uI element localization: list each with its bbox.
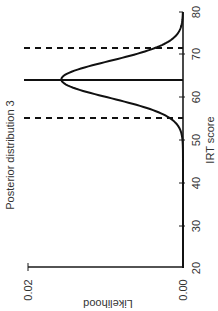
- likelihood-tick-label-0.02: 0.02: [22, 279, 34, 300]
- likelihood-axis-label: Likelihood: [83, 298, 133, 310]
- irt-tick-label-50: 50: [190, 134, 202, 146]
- likelihood-tick-label-0.00: 0.00: [177, 279, 189, 300]
- irt-tick-label-60: 60: [190, 91, 202, 103]
- chart-title: Posterior distribution 3: [4, 100, 16, 209]
- irt-tick-label-70: 70: [190, 48, 202, 60]
- irt-tick-label-30: 30: [190, 220, 202, 232]
- posterior-density-curve: [61, 12, 183, 268]
- posterior-distribution-chart: Posterior distribution 3 0.02 0.00 Likel…: [0, 0, 218, 311]
- irt-tick-label-40: 40: [190, 177, 202, 189]
- irt-tick-label-20: 20: [190, 262, 202, 274]
- irt-tick-label-80: 80: [190, 6, 202, 18]
- irt-score-axis-label: IRT score: [204, 116, 216, 163]
